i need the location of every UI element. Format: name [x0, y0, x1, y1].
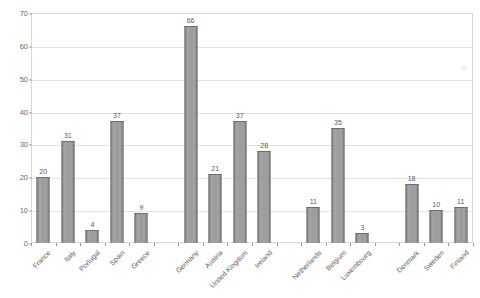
bar[interactable] [184, 26, 197, 243]
x-axis: FranceItalyPortugalSpainGreeceGermanyAus… [31, 243, 473, 298]
bar-value-label: 37 [236, 112, 244, 119]
bar[interactable] [405, 184, 418, 243]
bar[interactable] [209, 174, 222, 243]
bar-slot: 66 [178, 13, 203, 243]
bar[interactable] [331, 128, 344, 243]
x-axis-tick-mark [399, 243, 400, 246]
y-axis-tick-label: 50 [20, 76, 28, 84]
x-axis-tick-mark [424, 243, 425, 246]
bar[interactable] [135, 213, 148, 243]
bar[interactable] [307, 207, 320, 243]
x-axis-tick-mark [301, 243, 302, 246]
x-axis-tick-mark [350, 243, 351, 246]
bar-value-label: 31 [64, 132, 72, 139]
bar-value-label: 35 [334, 119, 342, 126]
x-axis-tick-mark [277, 243, 278, 246]
bar-value-label: 37 [113, 112, 121, 119]
x-axis-tick-mark [31, 243, 32, 246]
bar[interactable] [233, 121, 246, 243]
bar-value-label: 4 [90, 221, 94, 228]
bar[interactable] [61, 141, 74, 243]
bar-value-label: 11 [310, 198, 317, 205]
x-axis-tick-mark [448, 243, 449, 246]
y-axis-tick-label: 60 [20, 43, 28, 51]
bar-value-label: 20 [39, 168, 47, 175]
bar-value-label: 28 [260, 142, 268, 149]
x-axis-category-label: Portugal [78, 249, 101, 272]
bar-slot: 11 [448, 13, 473, 243]
bar-value-label: 18 [408, 175, 416, 182]
bar-slot: 10 [424, 13, 449, 243]
bar-chart: 010203040506070 203143796621372811353181… [0, 0, 480, 298]
bar[interactable] [110, 121, 123, 243]
bar[interactable] [430, 210, 443, 243]
bars-layer: 203143796621372811353181011 [31, 13, 473, 243]
x-axis-category-label: Italy [63, 249, 77, 263]
x-axis-category-label: Denmark [396, 249, 421, 274]
bar-value-label: 21 [211, 165, 219, 172]
bar-value-label: 10 [432, 201, 440, 208]
bar-slot-empty [277, 13, 302, 243]
bar[interactable] [86, 230, 99, 243]
bar[interactable] [258, 151, 271, 243]
bar-value-label: 66 [187, 17, 195, 24]
chart-title [0, 0, 480, 4]
bar[interactable] [37, 177, 50, 243]
x-axis-tick-mark [252, 243, 253, 246]
x-axis-tick-mark [227, 243, 228, 246]
artifact-speck: 0 [462, 64, 467, 71]
x-axis-tick-mark [129, 243, 130, 246]
y-axis-tick-label: 20 [20, 175, 28, 183]
y-axis-tick-label: 40 [20, 109, 28, 117]
y-axis-tick-label: 70 [20, 10, 28, 18]
y-axis-tick-label: 10 [20, 207, 28, 215]
x-axis-category-label: Germany [174, 249, 199, 274]
bar-slot: 28 [252, 13, 277, 243]
y-axis-tick-label: 0 [24, 240, 28, 248]
bar-slot: 21 [203, 13, 228, 243]
bar-slot: 20 [31, 13, 56, 243]
bar-slot: 35 [326, 13, 351, 243]
bar-slot: 37 [105, 13, 130, 243]
x-axis-tick-mark [473, 243, 474, 246]
bar-slot: 37 [227, 13, 252, 243]
x-axis-tick-mark [154, 243, 155, 246]
bar-slot: 4 [80, 13, 105, 243]
y-axis-tick-label: 30 [20, 142, 28, 150]
bar-slot-empty [375, 13, 400, 243]
x-axis-tick-mark [203, 243, 204, 246]
x-axis-tick-mark [178, 243, 179, 246]
x-axis-tick-mark [80, 243, 81, 246]
bar-slot: 31 [56, 13, 81, 243]
bar-slot: 3 [350, 13, 375, 243]
x-axis-tick-mark [375, 243, 376, 246]
bar-value-label: 9 [140, 204, 144, 211]
x-axis-category-label: France [32, 249, 52, 269]
x-axis-category-label: Finland [448, 249, 469, 270]
x-axis-tick-mark [56, 243, 57, 246]
x-axis-category-label: Ireland [253, 249, 273, 269]
bar-slot: 18 [399, 13, 424, 243]
bar-slot-empty [154, 13, 179, 243]
x-axis-category-label: Greece [129, 249, 150, 270]
x-axis-tick-mark [326, 243, 327, 246]
x-axis-category-label: Sweden [422, 249, 445, 272]
bar-slot: 9 [129, 13, 154, 243]
bar-slot: 11 [301, 13, 326, 243]
bar[interactable] [356, 233, 369, 243]
bar[interactable] [454, 207, 467, 243]
bar-value-label: 3 [361, 224, 365, 231]
x-axis-category-label: Belgium [324, 249, 347, 272]
x-axis-category-label: Netherlands [291, 249, 323, 281]
bar-value-label: 11 [457, 198, 464, 205]
x-axis-category-label: Austria [204, 249, 224, 269]
x-axis-category-label: Spain [108, 249, 126, 267]
x-axis-tick-mark [105, 243, 106, 246]
